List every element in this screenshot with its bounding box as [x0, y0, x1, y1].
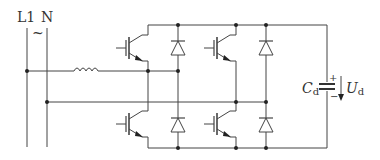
diode-top-right: [259, 41, 273, 55]
igbt-bottom-right: [204, 111, 236, 137]
junction-dots: [25, 23, 268, 150]
igbt-top-left: [116, 35, 148, 61]
label-l1: L1: [17, 9, 35, 25]
igbt-bottom-left: [116, 111, 148, 137]
label-neutral: N: [41, 9, 53, 25]
plus-sign: +: [329, 72, 337, 83]
voltage-label: Ud: [346, 80, 365, 97]
minus-sign: −: [330, 91, 338, 102]
diode-top-left: [171, 41, 185, 55]
capacitor: [319, 84, 335, 89]
capacitor-label: Cd: [302, 80, 320, 97]
circuit-diagram: L1 N ~ Cd Ud + −: [0, 0, 380, 160]
igbt-top-right: [204, 35, 236, 61]
diode-bottom-left: [171, 118, 185, 132]
voltage-arrow: [338, 76, 344, 101]
inductor: [74, 68, 98, 71]
diode-bottom-right: [259, 118, 273, 132]
ac-symbol: ~: [32, 25, 44, 41]
